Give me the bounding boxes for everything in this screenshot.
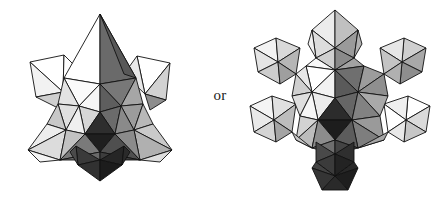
right-figure-svg — [240, 0, 440, 197]
left-figure-facets — [28, 14, 172, 181]
right-figure — [240, 0, 440, 197]
left-figure — [0, 0, 200, 197]
left-figure-svg — [0, 0, 200, 197]
figure-row: or — [0, 0, 440, 197]
conjunction-label: or — [203, 86, 237, 104]
right-figure-facets — [250, 10, 430, 190]
